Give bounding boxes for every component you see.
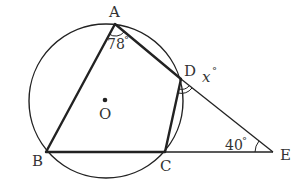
- angle-label-x-var: x: [202, 68, 211, 86]
- angle-label-e-value: 40: [225, 137, 243, 153]
- geometry-diagram: A B C D E O 78 ° 40 ° x °: [0, 0, 304, 184]
- diagram-svg: A B C D E O 78 ° 40 ° x °: [0, 0, 304, 184]
- label-b: B: [32, 152, 43, 170]
- label-d: D: [184, 62, 196, 80]
- angle-label-e-degree: °: [242, 135, 247, 146]
- angle-label-a-value: 78: [107, 36, 125, 52]
- center-point-o: [103, 98, 108, 103]
- label-c: C: [160, 157, 171, 175]
- label-a: A: [108, 3, 120, 21]
- label-e: E: [280, 146, 291, 164]
- label-o: O: [99, 105, 111, 123]
- angle-label-x-degree: °: [212, 65, 217, 76]
- angle-arc-e: [255, 141, 259, 152]
- angle-label-a-degree: °: [124, 34, 129, 45]
